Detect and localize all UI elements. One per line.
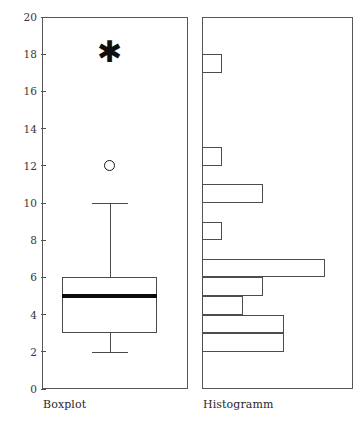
y-axis-tick-label: 4 <box>30 308 37 322</box>
y-axis-tick-label: 18 <box>23 47 37 61</box>
histogram-bars-layer <box>202 17 353 389</box>
figure-boxplot-histogram: 20181614121086420 ✱ Boxplot Histogramm <box>0 0 362 426</box>
histogram-bar <box>202 296 243 315</box>
boxplot-marks-layer: ✱ <box>42 17 188 389</box>
boxplot-lower-whisker-stem <box>110 333 111 352</box>
y-axis-tick-label: 12 <box>23 159 37 173</box>
y-axis-tick-label: 8 <box>30 233 37 247</box>
histogram-bar <box>202 277 263 296</box>
histogram-bar <box>202 333 284 352</box>
boxplot-lower-whisker-cap <box>92 352 128 353</box>
histogram-bar <box>202 184 263 203</box>
histogram-bar <box>202 259 325 278</box>
y-axis-tick-label: 0 <box>30 382 37 396</box>
histogram-caption: Histogramm <box>203 398 274 411</box>
boxplot-upper-whisker-cap <box>92 203 128 204</box>
boxplot-outlier-circle-icon <box>104 160 115 171</box>
y-axis-tick-label: 2 <box>30 345 37 359</box>
histogram-bar <box>202 54 222 73</box>
boxplot-outlier-asterisk-icon: ✱ <box>94 37 126 67</box>
y-axis-tick-label: 10 <box>23 196 37 210</box>
y-axis: 20181614121086420 <box>0 0 46 426</box>
y-axis-tick-label: 16 <box>23 84 37 98</box>
boxplot-upper-whisker-stem <box>110 203 111 277</box>
histogram-bar <box>202 315 284 334</box>
y-axis-tick-label: 6 <box>30 270 37 284</box>
y-axis-tick-label: 14 <box>23 122 37 136</box>
histogram-bar <box>202 147 222 166</box>
boxplot-caption: Boxplot <box>43 398 86 411</box>
boxplot-interquartile-box <box>62 277 157 333</box>
histogram-bar <box>202 222 222 241</box>
y-axis-tick-label: 20 <box>23 10 37 24</box>
boxplot-median-line <box>62 294 157 298</box>
